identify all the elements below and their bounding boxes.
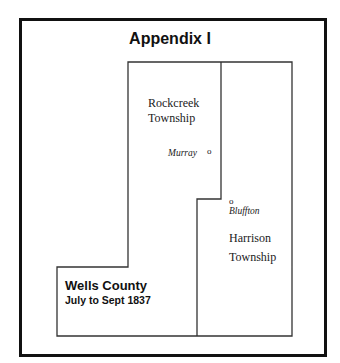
county-period: July to Sept 1837 (65, 294, 151, 306)
rockcreek-township-label: Rockcreek Township (148, 96, 199, 126)
harrison-township-label: Harrison Township (229, 229, 276, 267)
murray-town-label: Murray (168, 146, 197, 161)
county-name: Wells County (65, 278, 147, 293)
county-map (0, 0, 340, 363)
township-divider (197, 62, 221, 336)
murray-marker-icon: o (207, 146, 212, 156)
bluffton-town-label: Bluffton (229, 204, 260, 219)
